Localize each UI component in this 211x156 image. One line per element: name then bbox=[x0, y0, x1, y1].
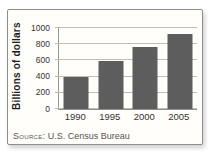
bar-2000 bbox=[133, 47, 158, 109]
bar-2005 bbox=[167, 34, 192, 109]
x-tick-label: 2005 bbox=[168, 112, 189, 122]
y-tick-label: 800 bbox=[36, 40, 50, 49]
y-axis-labels: 02004006008001000 bbox=[8, 28, 54, 109]
plot-area bbox=[58, 28, 197, 110]
source-prefix: Source: bbox=[13, 131, 45, 141]
bar-1990 bbox=[64, 77, 89, 109]
x-tick-label: 1995 bbox=[99, 112, 120, 122]
x-tick-label: 2000 bbox=[134, 112, 155, 122]
x-axis-labels: 1990199520002005 bbox=[58, 112, 196, 124]
gridline bbox=[55, 27, 197, 28]
y-tick-label: 400 bbox=[36, 72, 50, 81]
y-tick-label: 200 bbox=[36, 89, 50, 98]
source-text: U.S. Census Bureau bbox=[48, 131, 130, 141]
y-tick-label: 600 bbox=[36, 56, 50, 65]
x-tick-label: 1990 bbox=[65, 112, 86, 122]
bar-1995 bbox=[98, 61, 123, 109]
y-tick-label: 0 bbox=[45, 105, 50, 114]
source-note: Source: U.S. Census Bureau bbox=[13, 131, 130, 141]
y-tick-label: 1000 bbox=[31, 24, 50, 33]
chart-frame: Billions of dollars 02004006008001000 19… bbox=[7, 9, 203, 145]
